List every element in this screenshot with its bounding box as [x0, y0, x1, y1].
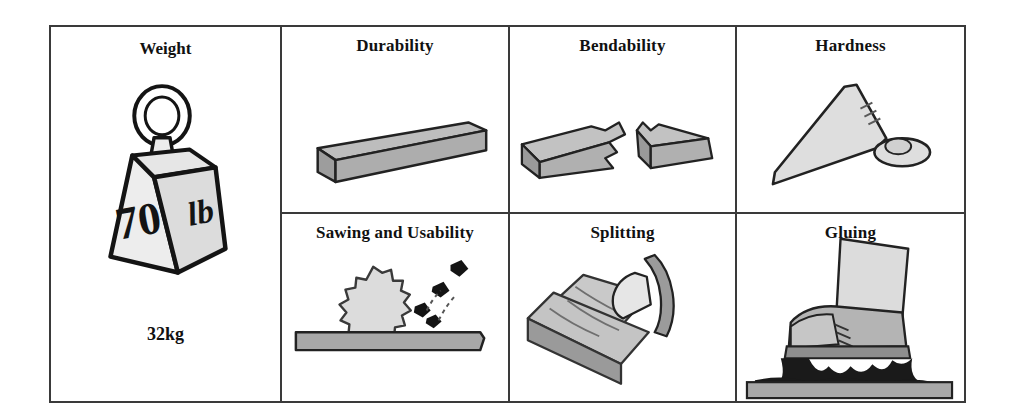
cell-durability: Durability	[282, 27, 510, 212]
circular-saw-blade-icon	[282, 214, 508, 401]
svg-text:70: 70	[111, 191, 165, 249]
property-grid: Durability Bendability	[282, 27, 964, 401]
boot-stuck-in-glue-icon	[737, 214, 964, 401]
cell-gluing: Gluing	[737, 214, 964, 401]
cell-sawing-and-usability: Sawing and Usability	[282, 214, 510, 401]
property-grid-row-top: Durability Bendability	[282, 27, 964, 214]
property-grid-row-bottom: Sawing and Usability	[282, 214, 964, 401]
cell-hardness: Hardness	[737, 27, 964, 212]
axe-and-split-wood-icon	[510, 214, 735, 401]
wood-properties-table: Weight 70 lb 32kg	[49, 25, 966, 403]
weight-caption: 32kg	[51, 324, 280, 345]
bent-nail-icon	[737, 27, 964, 212]
cell-splitting: Splitting	[510, 214, 737, 401]
cell-weight: Weight 70 lb 32kg	[51, 27, 282, 401]
cell-bendability: Bendability	[510, 27, 737, 212]
wooden-beam-icon	[282, 27, 508, 212]
broken-beam-icon	[510, 27, 735, 212]
